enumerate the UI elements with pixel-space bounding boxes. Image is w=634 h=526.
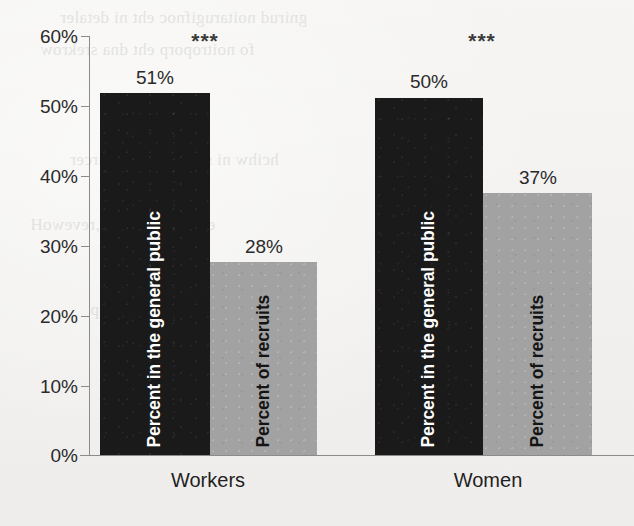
y-axis-label-10: 10% (6, 377, 78, 396)
bar-women-recruits[interactable]: Percent of recruits (483, 193, 592, 455)
bar-inner-label-workers-recruits: Percent of recruits (255, 294, 273, 447)
bar-chart: gnirud noitarugifnoc eht ni detaler fo n… (0, 0, 634, 526)
y-axis-tick-30 (81, 246, 89, 247)
y-axis-label-50: 50% (6, 97, 78, 116)
significance-marker-workers: *** (191, 30, 219, 51)
y-axis-tick-20 (81, 316, 89, 317)
bar-inner-label-workers-general-public: Percent in the general public (146, 211, 164, 447)
value-label-women-recruits: 37% (519, 168, 557, 187)
bar-workers-general-public[interactable]: Percent in the general public (100, 93, 210, 455)
value-label-workers-recruits: 28% (245, 237, 283, 256)
y-axis-tick-40 (81, 176, 89, 177)
y-axis-line (89, 36, 90, 456)
x-axis-category-women: Women (454, 470, 523, 490)
bar-inner-label-women-recruits: Percent of recruits (529, 294, 547, 447)
y-axis-label-0: 0% (6, 446, 78, 465)
bar-inner-label-women-general-public: Percent in the general public (420, 211, 438, 447)
value-label-workers-general-public: 51% (136, 68, 174, 87)
y-axis-tick-10 (81, 386, 89, 387)
value-label-women-general-public: 50% (410, 72, 448, 91)
y-axis-label-60: 60% (6, 27, 78, 46)
y-axis-label-40: 40% (6, 167, 78, 186)
bar-workers-recruits[interactable]: Percent of recruits (210, 262, 317, 455)
x-axis-category-workers: Workers (171, 470, 245, 490)
x-axis-line (80, 455, 634, 456)
y-axis-tick-60 (81, 36, 89, 37)
significance-marker-women: *** (468, 30, 496, 51)
y-axis-tick-0 (81, 455, 89, 456)
y-axis-label-30: 30% (6, 237, 78, 256)
y-axis-label-20: 20% (6, 307, 78, 326)
bleed-text-line-1: gnirud noitarugifnoc eht ni detaler (60, 8, 307, 28)
bar-women-general-public[interactable]: Percent in the general public (375, 98, 483, 455)
y-axis-tick-50 (81, 106, 89, 107)
